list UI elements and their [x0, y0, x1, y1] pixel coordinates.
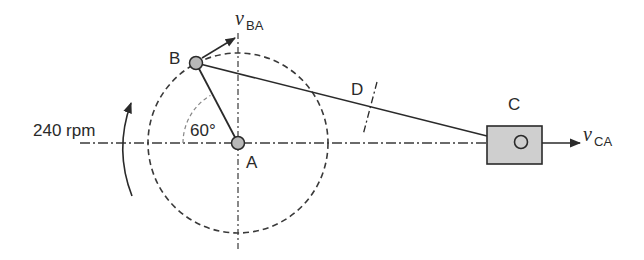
label-a: A: [246, 153, 258, 172]
label-c: C: [508, 95, 520, 114]
label-angle: 60°: [190, 121, 216, 140]
joint-a: [232, 137, 245, 150]
mechanism-svg: B A C D 60° 240 rpm v BA v CA: [0, 0, 644, 260]
label-v-ca: v: [583, 123, 592, 145]
slider-crank-diagram: B A C D 60° 240 rpm v BA v CA: [0, 0, 644, 260]
rotation-arrow: [123, 103, 132, 196]
label-b: B: [169, 49, 180, 68]
label-v-ca-subscript: CA: [594, 134, 612, 149]
label-d: D: [351, 80, 363, 99]
label-v-ba: v: [235, 7, 244, 29]
label-v-ba-subscript: BA: [246, 18, 264, 33]
connecting-rod-bc: [196, 63, 487, 136]
label-speed: 240 rpm: [33, 121, 95, 140]
joint-b: [190, 57, 203, 70]
